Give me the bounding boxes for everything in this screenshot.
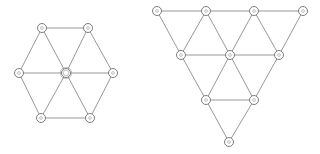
graph-edge xyxy=(42,28,66,73)
graph-edge xyxy=(41,73,66,118)
graph-edge xyxy=(206,55,230,100)
graph-node xyxy=(177,51,186,60)
node-circle-icon xyxy=(250,96,259,105)
graph-edge xyxy=(88,28,113,73)
graph-node xyxy=(250,7,259,16)
edge-layer xyxy=(157,11,303,142)
graph-edge xyxy=(254,11,279,55)
node-circle-icon xyxy=(15,69,24,78)
graph-edge xyxy=(230,11,254,55)
graph-edge xyxy=(229,100,254,142)
graph-diagram-canvas xyxy=(0,0,320,154)
node-circle-icon xyxy=(226,51,235,60)
node-circle-icon xyxy=(109,69,118,78)
inverted-triangular-grid-graph xyxy=(153,7,308,147)
graph-node xyxy=(299,7,308,16)
graph-node xyxy=(250,96,259,105)
node-circle-icon xyxy=(202,96,211,105)
node-circle-icon xyxy=(86,114,95,123)
hub-node xyxy=(60,67,71,78)
node-circle-icon xyxy=(202,7,211,16)
node-circle-icon xyxy=(275,51,284,60)
graph-edge xyxy=(279,11,303,55)
graph-node xyxy=(202,96,211,105)
node-circle-icon xyxy=(225,138,234,147)
node-circle-icon xyxy=(299,7,308,16)
graph-node xyxy=(225,138,234,147)
graph-edge xyxy=(254,55,279,100)
graph-edge xyxy=(181,11,206,55)
graph-edge xyxy=(66,28,88,73)
graph-edge xyxy=(19,28,42,73)
graph-node xyxy=(37,114,46,123)
graph-edge xyxy=(90,73,113,118)
graph-edge xyxy=(66,73,90,118)
graph-edge xyxy=(19,73,41,118)
graph-edge xyxy=(230,55,254,100)
node-circle-icon xyxy=(62,69,71,78)
graph-node xyxy=(84,24,93,33)
node-circle-icon xyxy=(37,114,46,123)
graph-edge xyxy=(206,100,229,142)
graph-node xyxy=(109,69,118,78)
graph-node xyxy=(15,69,24,78)
graph-edge xyxy=(157,11,181,55)
node-circle-icon xyxy=(250,7,259,16)
node-circle-icon xyxy=(153,7,162,16)
graph-node xyxy=(153,7,162,16)
graph-node xyxy=(86,114,95,123)
graph-node xyxy=(275,51,284,60)
graph-edge xyxy=(181,55,206,100)
node-circle-icon xyxy=(84,24,93,33)
graph-node xyxy=(202,7,211,16)
hexagon-wheel-graph xyxy=(15,24,118,123)
graph-edge xyxy=(206,11,230,55)
node-circle-icon xyxy=(38,24,47,33)
node-layer xyxy=(153,7,308,147)
graph-node xyxy=(226,51,235,60)
node-circle-icon xyxy=(177,51,186,60)
graph-node xyxy=(38,24,47,33)
